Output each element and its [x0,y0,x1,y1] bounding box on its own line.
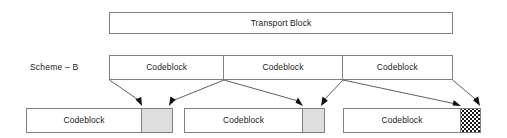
middle-codeblock-1: Codeblock [110,56,224,79]
bottom-codeblock-1-label: Codeblock [63,116,104,125]
bottom-codeblock-2: Codeblock [184,108,325,133]
connector-arrow-5 [343,80,461,106]
bottom-codeblock-1-filler [141,109,172,132]
middle-codeblock-1-label: Codeblock [146,63,187,72]
bottom-codeblock-1: Codeblock [26,108,173,133]
bottom-codeblock-2-filler [302,109,324,132]
middle-codeblock-2: Codeblock [224,56,342,79]
connector-arrow-4 [321,80,343,106]
bottom-codeblock-1-body: Codeblock [27,109,141,132]
bottom-codeblock-2-body: Codeblock [185,109,302,132]
connector-arrow-2 [169,80,224,106]
bottom-codeblock-3-label: Codeblock [381,116,422,125]
middle-codeblock-3: Codeblock [343,56,452,79]
middle-codeblock-3-label: Codeblock [377,63,418,72]
connector-arrow-3 [224,80,303,106]
scheme-label: Scheme – B [30,62,78,72]
middle-codeblock-row: Codeblock Codeblock Codeblock [109,55,453,80]
connector-arrow-1 [110,80,143,106]
bottom-codeblock-2-label: Codeblock [223,116,264,125]
bottom-codeblock-3-filler [460,109,480,132]
connector-arrow-6 [453,80,481,106]
bottom-codeblock-3: Codeblock [343,108,481,133]
bottom-codeblock-3-body: Codeblock [344,109,460,132]
transport-block-label: Transport Block [251,19,312,28]
transport-block: Transport Block [109,12,453,34]
middle-codeblock-2-label: Codeblock [262,63,303,72]
codeblock-segmentation-diagram: Transport Block Scheme – B Codeblock Cod… [0,0,507,138]
